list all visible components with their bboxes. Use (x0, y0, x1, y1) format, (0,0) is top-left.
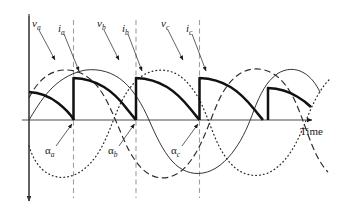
label-alpha-a: αa (45, 145, 55, 159)
current-pulse-leading (29, 92, 74, 120)
label-ic-subscript: c (189, 28, 192, 37)
label-vb-subscript: b (102, 23, 106, 32)
label-ib: ib (122, 23, 129, 37)
label-ic: ic (186, 23, 192, 37)
leader-ib (128, 34, 142, 71)
leader-vc (168, 30, 183, 60)
label-alpha-c-subscript: c (177, 150, 180, 159)
label-alpha-b: αb (108, 145, 118, 159)
label-vc-subscript: c (166, 23, 169, 32)
leader-alpha-b (119, 124, 135, 146)
label-va-subscript: a (37, 23, 41, 32)
label-vc: vc (161, 18, 169, 32)
waveform-figure (0, 0, 340, 210)
label-vb: vb (97, 18, 106, 32)
label-alpha-b-subscript: b (114, 150, 118, 159)
leader-ia (64, 34, 79, 71)
label-ib-subscript: b (125, 28, 129, 37)
current-pulse-ib (136, 78, 200, 120)
current-pulse-trailing (268, 88, 311, 120)
label-ia-subscript: a (61, 28, 65, 37)
current-pulses-group (29, 78, 311, 120)
leader-vb (104, 30, 119, 60)
leader-alpha-a (56, 124, 72, 146)
label-va: va (32, 18, 41, 32)
current-pulse-ic (200, 78, 264, 120)
label-alpha-a-subscript: a (51, 150, 55, 159)
leader-arrows-group (39, 30, 206, 146)
leader-alpha-c (182, 124, 198, 146)
leader-va (39, 30, 55, 60)
label-time-axis: Time (300, 126, 323, 137)
label-ia: ia (58, 23, 65, 37)
label-alpha-c: αc (171, 145, 180, 159)
